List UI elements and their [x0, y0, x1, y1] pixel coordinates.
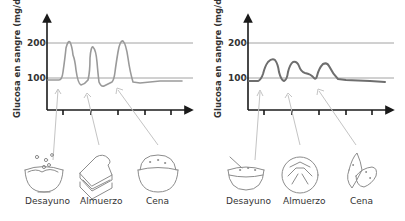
meal-label-cena: Cena [350, 196, 373, 206]
chart-high-gi: Glucosa en sangre (mg/dl) 200 100 [12, 0, 193, 206]
y-tick-200: 200 [27, 38, 46, 48]
meal-pointers [255, 89, 356, 160]
meal-label-desayuno: Desayuno [25, 196, 70, 206]
y-tick-200: 200 [228, 38, 247, 48]
y-tick-100: 100 [228, 73, 247, 83]
chart-low-gi: Glucosa en sangre (mg/dl) 200 100 [213, 0, 394, 206]
y-tick-100: 100 [27, 73, 46, 83]
cereal-bowl-icon [25, 154, 63, 192]
y-axis-label: Glucosa en sangre (mg/dl) [12, 0, 22, 118]
glucose-curve-low-gi [249, 59, 385, 82]
meal-pointers [53, 88, 158, 160]
meal-label-almuerzo: Almuerzo [80, 196, 123, 206]
y-axis-label: Glucosa en sangre (mg/dl) [213, 0, 223, 118]
meal-label-desayuno: Desayuno [226, 196, 271, 206]
meal-label-cena: Cena [146, 196, 169, 206]
sweet-potato-icon [348, 153, 377, 188]
oatmeal-bowl-icon [228, 157, 264, 190]
rice-bowl-icon [138, 155, 178, 192]
bread-slices-icon [80, 155, 112, 199]
whole-grain-bread-icon [282, 157, 318, 193]
meal-label-almuerzo: Almuerzo [283, 196, 326, 206]
glucose-curve-high-gi [48, 41, 182, 86]
glucose-diagram: Glucosa en sangre (mg/dl) 200 100 [0, 0, 405, 221]
